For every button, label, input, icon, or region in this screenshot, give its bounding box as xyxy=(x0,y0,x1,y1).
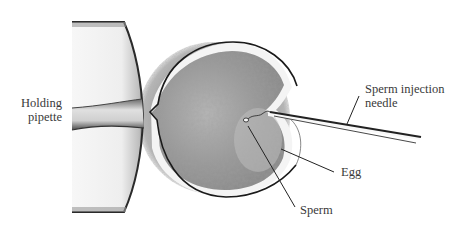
label-holding-pipette: Holding pipette xyxy=(2,96,62,124)
label-injection-needle: Sperm injection needle xyxy=(365,82,445,110)
label-egg: Egg xyxy=(341,165,361,179)
label-sperm: Sperm xyxy=(300,203,333,217)
leader-needle xyxy=(347,96,359,124)
holding-pipette xyxy=(72,22,144,212)
icsi-diagram xyxy=(0,0,471,232)
sperm-head xyxy=(243,118,248,122)
